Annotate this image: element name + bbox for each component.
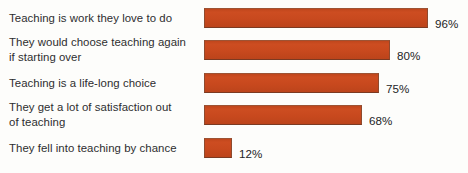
category-label: They get a lot of satisfaction out of te… <box>9 98 197 132</box>
category-label: Teaching is a life-long choice <box>9 66 197 100</box>
chart-row: They would choose teaching again if star… <box>0 33 468 67</box>
category-label-line: of teaching <box>9 115 197 130</box>
category-label: They fell into teaching by chance <box>9 131 197 165</box>
bar-track: 68% <box>204 105 468 125</box>
bar-value-label: 68% <box>369 111 393 131</box>
category-label-line: Teaching is a life-long choice <box>9 76 197 91</box>
bar <box>204 73 379 93</box>
chart-row: They fell into teaching by chance 12% <box>0 131 468 165</box>
chart-row: Teaching is a life-long choice 75% <box>0 66 468 100</box>
category-label-line: They would choose teaching again <box>9 35 197 50</box>
bar <box>204 138 232 158</box>
bar-track: 75% <box>204 73 468 93</box>
category-label-line: They fell into teaching by chance <box>9 141 197 156</box>
bar <box>204 105 362 125</box>
category-label-line: They get a lot of satisfaction out <box>9 100 197 115</box>
category-label-line: Teaching is work they love to do <box>9 11 197 26</box>
category-label: They would choose teaching again if star… <box>9 33 197 67</box>
bar-track: 80% <box>204 40 468 60</box>
bar-value-label: 75% <box>386 79 410 99</box>
category-label-line: if starting over <box>9 50 197 65</box>
chart-row: Teaching is work they love to do 96% <box>0 1 468 35</box>
bar-value-label: 80% <box>397 46 421 66</box>
bar-track: 96% <box>204 8 468 28</box>
bar <box>204 8 428 28</box>
bar-value-label: 12% <box>239 144 263 164</box>
bar-value-label: 96% <box>435 14 459 34</box>
category-label: Teaching is work they love to do <box>9 1 197 35</box>
bar <box>204 40 390 60</box>
horizontal-bar-chart: Teaching is work they love to do 96% The… <box>0 0 468 173</box>
chart-row: They get a lot of satisfaction out of te… <box>0 98 468 132</box>
bar-track: 12% <box>204 138 468 158</box>
